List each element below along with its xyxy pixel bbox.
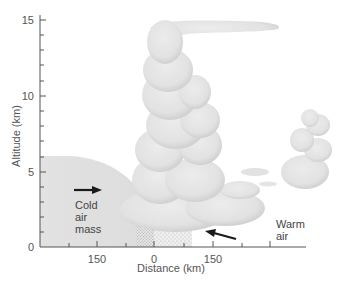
- cumulonimbus-cloud: [120, 20, 279, 232]
- x-axis-title: Distance (km): [126, 262, 216, 274]
- small-cloud-wisp: [241, 168, 269, 176]
- cold-front-thunderstorm-diagram: 15 10 5 0 150 0 150 Altitude (km) Distan…: [0, 0, 346, 287]
- y-tick-label-0: 0: [14, 241, 34, 253]
- warm-air-label-line1: Warm: [276, 218, 305, 230]
- warm-air-label-line2: air: [276, 230, 305, 242]
- diagram-canvas: [0, 0, 346, 287]
- cold-air-label-line1: Cold: [75, 199, 101, 211]
- cold-air-label-line3: mass: [75, 223, 101, 235]
- x-tick-label-150-left: 150: [82, 253, 112, 265]
- y-axis-title: Altitude (km): [10, 96, 22, 176]
- cold-air-label-line2: air: [75, 211, 101, 223]
- small-cloud-wisp: [259, 182, 277, 187]
- warm-air-label: Warm air: [276, 218, 305, 242]
- distant-cumulus-cloud: [281, 109, 332, 189]
- y-tick-label-15: 15: [14, 14, 34, 26]
- cold-air-mass-label: Cold air mass: [75, 199, 101, 235]
- warm-air-arrow-icon: [205, 229, 236, 239]
